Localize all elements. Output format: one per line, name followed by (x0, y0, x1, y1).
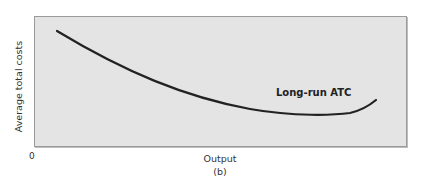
plot-area (34, 16, 407, 147)
long-run-atc-curve (35, 17, 406, 146)
x-axis-label: Output (190, 153, 250, 164)
curve-label: Long-run ATC (276, 87, 351, 98)
y-axis-label: Average total costs (13, 32, 24, 142)
origin-label: 0 (29, 151, 35, 161)
panel-label: (b) (190, 166, 250, 177)
